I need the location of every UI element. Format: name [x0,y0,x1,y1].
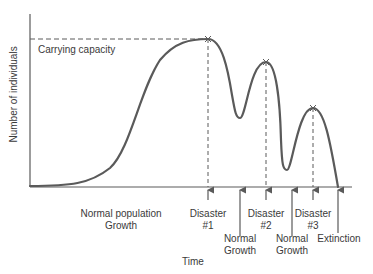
carrying-capacity-label: Carrying capacity [38,44,115,56]
disaster3-text: Disaster [291,208,335,220]
normal-population-line2: Growth [76,220,166,232]
normal-population-line1: Normal population [76,208,166,220]
disaster1-label: Disaster #1 [186,208,230,232]
normal-growth2-label: Normal Growth [270,233,314,257]
disaster1-text: Disaster [186,208,230,220]
disaster3-num: #3 [291,220,335,232]
disaster2-text: Disaster [244,208,288,220]
disaster1-num: #1 [186,220,230,232]
normal-growth2-text: Normal [270,233,314,245]
normal-growth2-line2: Growth [270,245,314,257]
extinction-label: Extinction [316,233,362,245]
x-axis-label: Time [182,256,204,268]
disaster3-label: Disaster #3 [291,208,335,232]
normal-growth1-text: Normal [218,233,262,245]
normal-growth1-line2: Growth [218,245,262,257]
population-curve [30,39,338,187]
normal-population-label: Normal population Growth [76,208,166,232]
disaster2-label: Disaster #2 [244,208,288,232]
normal-growth1-label: Normal Growth [218,233,262,257]
disaster2-num: #2 [244,220,288,232]
y-axis-label: Number of individuals [8,53,19,143]
